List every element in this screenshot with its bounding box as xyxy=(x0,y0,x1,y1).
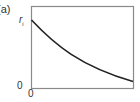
x-axis-zero-label: 0 xyxy=(28,88,34,99)
y-axis-zero-label: 0 xyxy=(17,80,23,91)
y-top-label-subscript: i xyxy=(22,21,23,27)
decay-curve xyxy=(32,20,134,82)
y-axis-top-label: ri xyxy=(19,14,24,27)
